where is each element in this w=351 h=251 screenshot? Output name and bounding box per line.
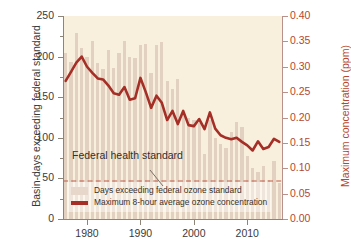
y-axis-minor-tick (60, 36, 63, 37)
y2-axis-tick (283, 143, 288, 144)
legend-label-line: Maximum 8-hour average ozone concentrati… (94, 198, 267, 207)
x-axis-tick (194, 220, 195, 225)
y2-axis-tick (283, 16, 288, 17)
y-axis-tick (58, 138, 63, 139)
y-axis-tick-label: 250 (16, 9, 54, 21)
y-axis-tick (58, 57, 63, 58)
y-axis-minor-tick (60, 199, 63, 200)
y2-axis-tick-label: 0.15 (290, 136, 310, 148)
chart-legend: Days exceeding federal ozone standard Ma… (67, 182, 271, 212)
y-axis-tick (58, 178, 63, 179)
left-axis-title: Basin-days exceeding federal standard (30, 16, 42, 216)
line-swatch (71, 201, 88, 205)
left-axis-line (63, 16, 64, 219)
y2-axis-tick-label: 0.25 (290, 85, 310, 97)
y2-axis-tick (283, 118, 288, 119)
y2-axis-tick (283, 41, 288, 42)
y-axis-tick-label: 200 (16, 50, 54, 62)
y2-axis-tick-label: 0.35 (290, 34, 310, 46)
y2-axis-tick (283, 219, 288, 220)
x-axis-tick (247, 220, 248, 225)
y-axis-tick-label: 0 (16, 212, 54, 224)
y-axis-tick (58, 16, 63, 17)
y2-axis-tick-label: 0.00 (290, 212, 310, 224)
y-axis-tick-label: 150 (16, 90, 54, 102)
y2-axis-tick-label: 0.10 (290, 161, 310, 173)
y-axis-tick (58, 97, 63, 98)
y-axis-minor-tick (60, 158, 63, 159)
ozone-concentration-line (66, 57, 280, 151)
x-axis-tick (140, 220, 141, 225)
y-axis-minor-tick (60, 77, 63, 78)
y2-axis-tick-label: 0.20 (290, 111, 310, 123)
y-axis-tick-label: 50 (16, 171, 54, 183)
right-axis-title: Maximum concentration (ppm) (339, 16, 351, 216)
y2-axis-tick (283, 168, 288, 169)
y-axis-minor-tick (60, 118, 63, 119)
x-axis-tick-label: 2010 (225, 227, 269, 239)
legend-label-bars: Days exceeding federal ozone standard (94, 186, 242, 195)
y2-axis-tick-label: 0.30 (290, 60, 310, 72)
bar-swatch (71, 187, 88, 195)
y2-axis-tick-label: 0.05 (290, 187, 310, 199)
x-axis-tick-label: 1990 (118, 227, 162, 239)
y2-axis-tick (283, 67, 288, 68)
y2-axis-tick (283, 194, 288, 195)
plot-area: Days exceeding federal ozone standard Ma… (63, 16, 282, 219)
federal-standard-annotation: Federal health standard (72, 149, 183, 161)
legend-item-bars: Days exceeding federal ozone standard (71, 185, 267, 196)
x-axis-line (63, 219, 283, 220)
x-axis-tick (87, 220, 88, 225)
legend-item-line: Maximum 8-hour average ozone concentrati… (71, 197, 267, 208)
x-axis-tick-label: 2000 (172, 227, 216, 239)
y-axis-tick-label: 100 (16, 131, 54, 143)
x-axis-tick-label: 1980 (65, 227, 109, 239)
y2-axis-tick (283, 92, 288, 93)
y-axis-tick (58, 219, 63, 220)
y2-axis-tick-label: 0.40 (290, 9, 310, 21)
